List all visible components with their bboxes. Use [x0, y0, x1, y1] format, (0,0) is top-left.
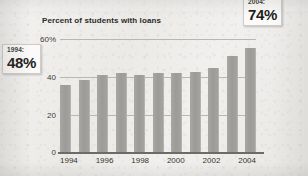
x-tick-label-2000: 2000 [167, 156, 185, 165]
plot-area: 60% 40 20 0 [60, 39, 256, 153]
callout-1994-year: 1994: [7, 47, 36, 54]
callout-2004-year: 2004: [248, 0, 277, 6]
x-tick-label-2002: 2002 [203, 156, 221, 165]
callout-2004: 2004: 74% [243, 0, 282, 26]
bar-1999 [153, 73, 164, 153]
bar-2001 [190, 72, 201, 153]
y-tick-label-20: 20 [47, 111, 56, 120]
bar-2000 [171, 73, 182, 153]
x-tick-label-2004: 2004 [238, 156, 256, 165]
x-axis-line [58, 152, 264, 154]
bar-1995 [79, 80, 90, 153]
x-tick-label-1998: 1998 [131, 156, 149, 165]
bar-1998 [134, 75, 145, 153]
bar-2003 [227, 56, 238, 153]
x-tick-label-1996: 1996 [96, 156, 114, 165]
x-axis-labels: 199419961998200020022004 [60, 156, 256, 170]
callout-1994-percent: 48% [7, 55, 36, 70]
x-tick-label-1994: 1994 [60, 156, 78, 165]
bar-1994 [60, 85, 71, 153]
bar-series [60, 39, 256, 153]
bar-2004 [245, 48, 256, 153]
y-tick-label-0: 0 [52, 148, 56, 157]
y-tick-label-40: 40 [47, 73, 56, 82]
chart-title: Percent of students with loans [42, 16, 161, 25]
callout-1994: 1994: 48% [2, 44, 41, 74]
y-tick-label-60: 60% [40, 35, 56, 44]
bar-2002 [208, 68, 219, 154]
callout-2004-percent: 74% [248, 7, 277, 22]
bar-1997 [116, 73, 127, 153]
bar-1996 [97, 75, 108, 153]
